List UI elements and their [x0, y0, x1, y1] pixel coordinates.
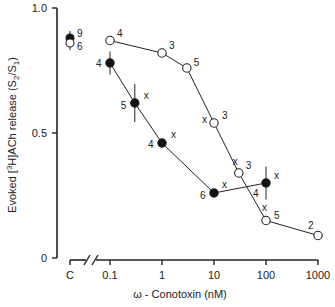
data-point-open [235, 169, 243, 177]
chart: 00.51.0C0.11101001000 945x4x6x4x64353x3x… [0, 0, 335, 307]
x-axis-label: ω - Conotoxin (nM) [133, 288, 227, 300]
series-points: 945x4x6x4x64353x3x5x2 [66, 28, 322, 240]
n-label: 4 [96, 58, 102, 69]
n-label: 2 [308, 220, 314, 231]
x-tick-label: 0.1 [102, 269, 117, 281]
y-axis-label: Evoked [3H]ACh release (S2/S1) [5, 57, 21, 213]
y-tick-label: 0.5 [32, 127, 47, 139]
data-point-filled [210, 189, 218, 197]
control-point-open [66, 39, 74, 47]
significance-mark: x [222, 179, 227, 190]
n-label: 6 [77, 41, 83, 52]
significance-mark: x [233, 156, 238, 167]
series-lines [110, 41, 318, 236]
n-label: 3 [246, 160, 252, 171]
significance-mark: x [274, 170, 279, 181]
data-point-open [262, 216, 270, 224]
axis-labels: ω - Conotoxin (nM) Evoked [3H]ACh releas… [5, 57, 227, 300]
n-label: 3 [169, 40, 175, 51]
chart-svg: 00.51.0C0.11101001000 945x4x6x4x64353x3x… [0, 0, 335, 307]
n-label: 4 [117, 28, 123, 39]
y-tick-label: 0 [41, 252, 47, 264]
y-tick-label: 1.0 [32, 2, 47, 14]
n-label: 6 [200, 190, 206, 201]
data-point-open [210, 119, 218, 127]
x-tick-label: 1 [159, 269, 165, 281]
data-point-open [183, 64, 191, 72]
n-label: 3 [222, 110, 228, 121]
n-label: 9 [77, 28, 83, 39]
x-tick-label: C [66, 269, 74, 281]
data-point-open [158, 49, 166, 57]
series-line-filled [162, 143, 214, 193]
significance-mark: x [171, 129, 176, 140]
x-tick-label: 1000 [306, 269, 330, 281]
n-label: 5 [121, 100, 127, 111]
data-point-open [106, 36, 114, 44]
data-point-filled [262, 179, 270, 187]
n-label: 5 [194, 57, 200, 68]
data-point-filled [158, 139, 166, 147]
data-point-filled [106, 59, 114, 67]
series-line-open [187, 68, 214, 123]
data-point-filled [131, 99, 139, 107]
data-point-open [314, 231, 322, 239]
n-label: 4 [253, 188, 259, 199]
n-label: 5 [274, 210, 280, 221]
significance-mark: x [144, 90, 149, 101]
n-label: 4 [148, 139, 154, 150]
series-line-open [110, 41, 162, 54]
x-tick-label: 10 [208, 269, 220, 281]
series-line-filled [135, 103, 162, 143]
x-tick-label: 100 [257, 269, 275, 281]
significance-mark: x [262, 202, 267, 213]
series-line-filled [110, 63, 135, 103]
significance-mark: x [202, 114, 207, 125]
